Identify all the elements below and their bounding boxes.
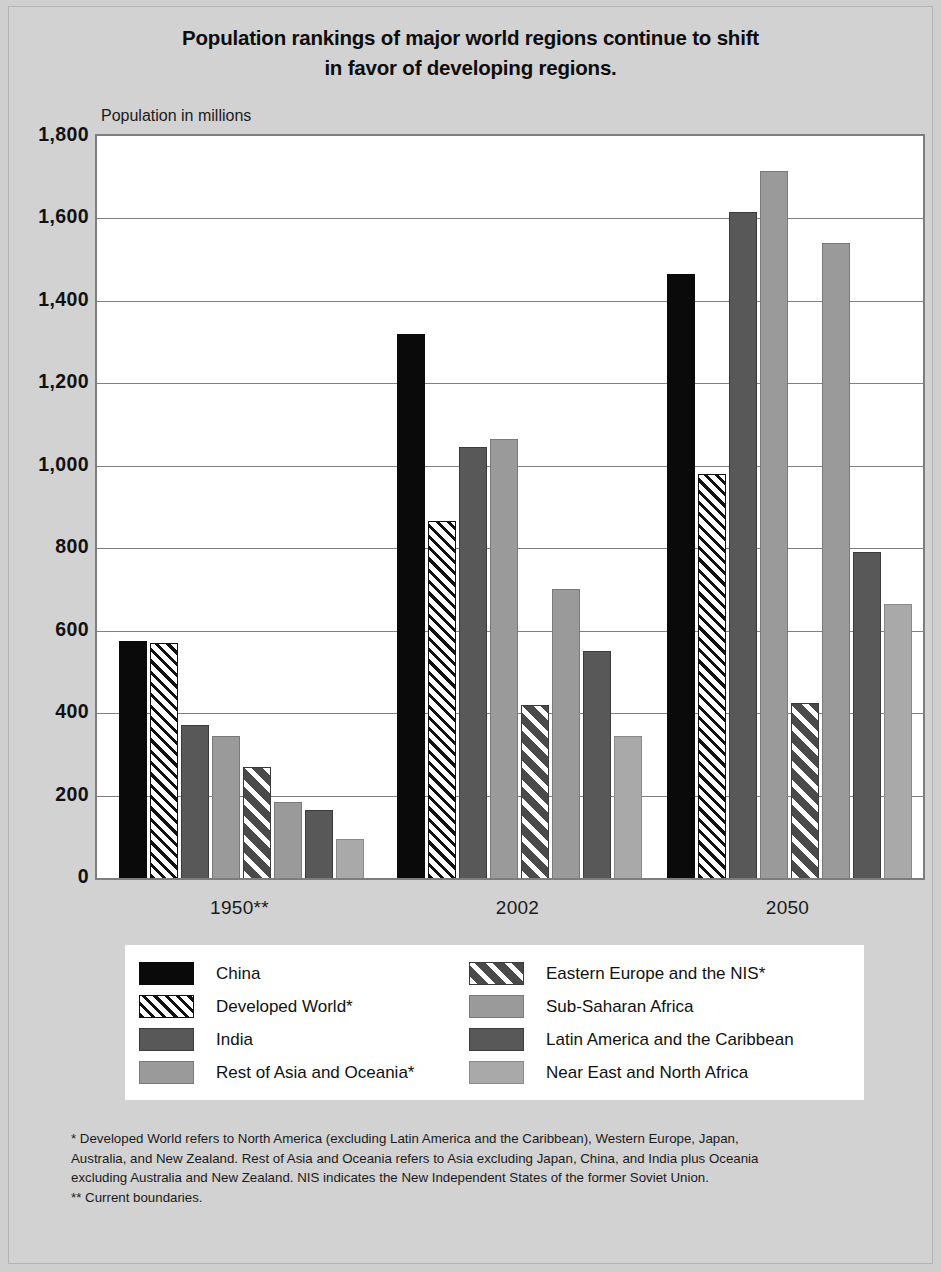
legend-item[interactable]: Eastern Europe and the NIS*: [469, 957, 864, 990]
legend-item[interactable]: China: [139, 957, 455, 990]
legend-swatch-dark-gray: [139, 1028, 194, 1051]
y-tick-0: 0: [0, 865, 89, 888]
legend-swatch-hatch-light: [139, 995, 194, 1018]
y-tick-600: 600: [0, 617, 89, 640]
footnote-line-3: excluding Australia and New Zealand. NIS…: [71, 1168, 891, 1188]
bar[interactable]: [521, 705, 549, 878]
bar[interactable]: [791, 703, 819, 878]
bar[interactable]: [459, 447, 487, 878]
legend-swatch-dark-gray: [469, 1028, 524, 1051]
legend-column-right: Eastern Europe and the NIS*Sub-Saharan A…: [455, 945, 864, 1100]
plot-wrapper: 1,8001,6001,4001,2001,0008006004002000 1…: [9, 7, 934, 927]
x-tick-2050: 2050: [766, 897, 809, 919]
legend-item-label: Rest of Asia and Oceania*: [216, 1063, 414, 1083]
bar[interactable]: [181, 725, 209, 878]
y-tick-1600: 1,600: [0, 205, 89, 228]
bar[interactable]: [884, 604, 912, 878]
bar-group-2050: [667, 136, 912, 878]
bar[interactable]: [490, 439, 518, 878]
legend-item[interactable]: Latin America and the Caribbean: [469, 1023, 864, 1056]
legend-item[interactable]: Sub-Saharan Africa: [469, 990, 864, 1023]
legend-item-label: India: [216, 1030, 253, 1050]
y-tick-1000: 1,000: [0, 452, 89, 475]
footnotes: * Developed World refers to North Americ…: [71, 1129, 891, 1207]
bar[interactable]: [150, 643, 178, 878]
legend-item-label: Eastern Europe and the NIS*: [546, 964, 765, 984]
legend-item-label: Developed World*: [216, 997, 353, 1017]
legend-swatch-light-gray: [469, 1061, 524, 1084]
bar[interactable]: [583, 651, 611, 878]
footnote-line-1: * Developed World refers to North Americ…: [71, 1129, 891, 1149]
footnote-line-2: Australia, and New Zealand. Rest of Asia…: [71, 1149, 891, 1169]
legend-item[interactable]: Developed World*: [139, 990, 455, 1023]
legend-item-label: China: [216, 964, 260, 984]
bar[interactable]: [760, 171, 788, 878]
bar[interactable]: [119, 641, 147, 878]
legend-column-left: ChinaDeveloped World*IndiaRest of Asia a…: [125, 945, 455, 1100]
y-tick-800: 800: [0, 535, 89, 558]
bar[interactable]: [212, 736, 240, 878]
bar[interactable]: [274, 802, 302, 878]
y-tick-200: 200: [0, 782, 89, 805]
legend-swatch-mid-gray: [139, 1061, 194, 1084]
legend-item-label: Near East and North Africa: [546, 1063, 748, 1083]
chart-legend: ChinaDeveloped World*IndiaRest of Asia a…: [125, 945, 864, 1100]
legend-item[interactable]: Near East and North Africa: [469, 1056, 864, 1089]
x-tick-2002: 2002: [496, 897, 539, 919]
bar[interactable]: [428, 521, 456, 878]
bar[interactable]: [729, 212, 757, 878]
footnote-line-4: ** Current boundaries.: [71, 1188, 891, 1208]
bar-group-1950: [119, 136, 364, 878]
y-tick-400: 400: [0, 700, 89, 723]
legend-item[interactable]: Rest of Asia and Oceania*: [139, 1056, 455, 1089]
bar[interactable]: [243, 767, 271, 878]
legend-swatch-hatch-dark: [469, 962, 524, 985]
y-tick-1200: 1,200: [0, 370, 89, 393]
bar[interactable]: [614, 736, 642, 878]
legend-swatch-mid-gray: [469, 995, 524, 1018]
bar[interactable]: [853, 552, 881, 878]
x-tick-1950: 1950**: [210, 897, 269, 919]
legend-item[interactable]: India: [139, 1023, 455, 1056]
plot-area: [95, 134, 925, 880]
bar[interactable]: [552, 589, 580, 878]
bar[interactable]: [698, 474, 726, 878]
bar[interactable]: [397, 334, 425, 878]
bar-group-2002: [397, 136, 642, 878]
legend-swatch-solid-black: [139, 962, 194, 985]
figure-panel: Population rankings of major world regio…: [8, 6, 933, 1264]
y-tick-1400: 1,400: [0, 287, 89, 310]
bar[interactable]: [822, 243, 850, 878]
y-tick-1800: 1,800: [0, 123, 89, 146]
bar[interactable]: [667, 274, 695, 878]
legend-item-label: Latin America and the Caribbean: [546, 1030, 794, 1050]
legend-item-label: Sub-Saharan Africa: [546, 997, 693, 1017]
bars-layer: [97, 136, 923, 878]
bar[interactable]: [305, 810, 333, 878]
bar[interactable]: [336, 839, 364, 878]
